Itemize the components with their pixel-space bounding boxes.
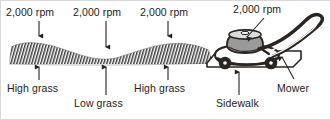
rpm-label-low-grass: 2,000 rpm	[73, 7, 121, 18]
lawn-mower-figure: 2,000 rpm 2,000 rpm 2,000 rpm 2,000 rpm …	[0, 0, 331, 120]
label-high-grass-right: High grass	[134, 83, 185, 94]
grass-hatching	[9, 43, 213, 64]
rpm-label-mower: 2,000 rpm	[233, 4, 281, 15]
rpm-label-high-grass-left: 2,000 rpm	[6, 7, 54, 18]
mower-wheel-rear-hub	[269, 61, 273, 65]
label-low-grass: Low grass	[74, 98, 123, 109]
mower-assembly	[207, 15, 322, 69]
label-high-grass-left: High grass	[7, 83, 58, 94]
label-sidewalk: Sidewalk	[216, 98, 259, 109]
figure-graphics	[1, 1, 331, 120]
engine-cap-knob	[241, 31, 249, 34]
label-mower: Mower	[277, 83, 309, 94]
grass-band	[9, 43, 213, 65]
rpm-label-high-grass-right: 2,000 rpm	[140, 7, 188, 18]
mower-wheel-front-hub	[223, 61, 227, 65]
